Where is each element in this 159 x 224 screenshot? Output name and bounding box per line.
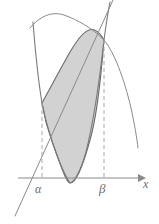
- alpha-tick-label: α: [35, 183, 41, 195]
- math-figure-svg: [0, 0, 159, 224]
- figure-container: α β x: [0, 0, 159, 224]
- x-axis-label: x: [143, 178, 148, 190]
- beta-tick-label: β: [99, 182, 105, 195]
